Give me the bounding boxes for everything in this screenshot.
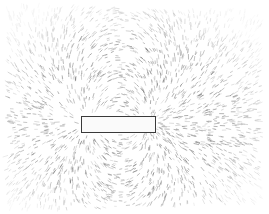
bar-magnet [81,116,156,133]
magnetic-field-filings [0,0,269,214]
iron-filings-photo [0,0,269,214]
